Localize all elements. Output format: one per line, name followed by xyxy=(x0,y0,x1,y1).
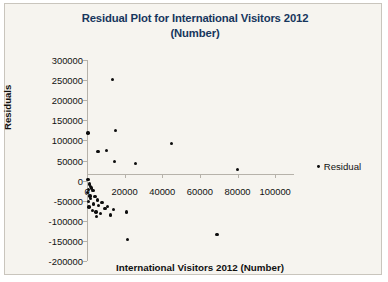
data-point xyxy=(99,212,102,215)
y-axis-tick xyxy=(83,161,87,162)
data-point xyxy=(95,215,98,218)
data-point xyxy=(100,201,103,204)
plot-area xyxy=(87,60,294,282)
chart-title-line-2: (Number) xyxy=(35,26,355,41)
data-point xyxy=(170,142,173,145)
data-point xyxy=(215,233,218,236)
y-tick-label: 300000 xyxy=(52,55,83,66)
data-point xyxy=(87,205,90,208)
data-point xyxy=(86,131,89,134)
y-axis-tick xyxy=(83,80,87,81)
data-point xyxy=(94,210,97,213)
y-axis-tick xyxy=(83,60,87,61)
x-axis-tick xyxy=(238,174,239,178)
data-point xyxy=(86,178,89,181)
x-axis-tick xyxy=(275,174,276,178)
data-point xyxy=(91,189,94,192)
data-point xyxy=(125,210,128,213)
y-axis-tick xyxy=(83,241,87,242)
data-point xyxy=(126,238,129,241)
chart-container: Residual Plot for International Visitors… xyxy=(4,3,382,275)
x-axis-line xyxy=(87,174,294,175)
x-axis-tick xyxy=(125,174,126,178)
y-axis-tick xyxy=(83,140,87,141)
y-axis-title: Residuals xyxy=(2,85,13,130)
data-point xyxy=(105,149,108,152)
data-point xyxy=(97,204,100,207)
x-axis-tick xyxy=(162,174,163,178)
y-axis-line xyxy=(87,60,88,261)
y-tick-label: -150000 xyxy=(49,235,83,246)
y-tick-label: -50000 xyxy=(54,195,83,206)
data-point xyxy=(112,208,115,211)
legend-marker-icon xyxy=(317,165,320,168)
data-point xyxy=(109,213,112,216)
y-axis-tick xyxy=(83,221,87,222)
data-point xyxy=(92,202,95,205)
chart-title-line-1: Residual Plot for International Visitors… xyxy=(35,11,355,26)
data-point xyxy=(134,162,137,165)
x-axis-tick xyxy=(200,174,201,178)
y-tick-label: -200000 xyxy=(49,256,83,267)
y-axis-tick-labels: 300000250000200000150000100000500000-500… xyxy=(23,60,83,270)
data-point xyxy=(106,205,109,208)
y-tick-label: -100000 xyxy=(49,215,83,226)
data-point xyxy=(96,150,99,153)
chart-title: Residual Plot for International Visitors… xyxy=(35,11,355,40)
y-tick-label: 100000 xyxy=(52,135,83,146)
data-point xyxy=(96,198,99,201)
y-axis-tick xyxy=(83,261,87,262)
legend-label: Residual xyxy=(324,161,361,172)
data-point xyxy=(87,200,90,203)
data-point xyxy=(111,78,114,81)
y-axis-tick xyxy=(83,120,87,121)
y-axis-tick xyxy=(83,100,87,101)
data-point xyxy=(114,129,117,132)
y-tick-label: 200000 xyxy=(52,95,83,106)
data-point xyxy=(113,160,116,163)
y-tick-label: 50000 xyxy=(57,155,83,166)
data-point xyxy=(236,168,239,171)
chart-legend: Residual xyxy=(317,161,361,172)
y-tick-label: 250000 xyxy=(52,75,83,86)
y-tick-label: 150000 xyxy=(52,115,83,126)
